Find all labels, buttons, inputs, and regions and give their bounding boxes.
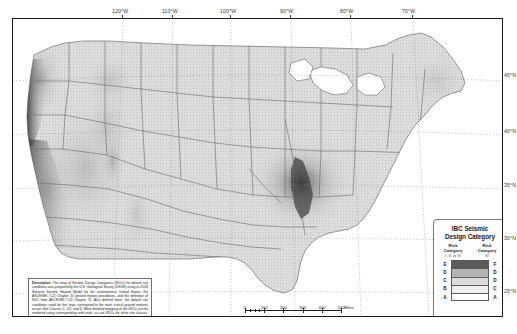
legend-row-4-left-label: A: [439, 293, 451, 301]
latitude-label-1: 40°N: [504, 128, 516, 134]
legend-column-headers: Risk Category I, II, or III Risk Categor…: [434, 241, 503, 258]
map-frame: IBC Seismic Design Category Risk Categor…: [12, 18, 503, 317]
scale-bar-group: 0100200300400500Miles0100200300400500kil…: [245, 305, 363, 317]
legend-title-line2: Design Category: [438, 233, 502, 241]
map-canvas[interactable]: [13, 19, 502, 316]
description-body: This map of Seismic Design Categories (S…: [32, 281, 148, 317]
legend-row-4[interactable]: AA: [439, 293, 501, 301]
legend-row-4-right-label: A: [489, 293, 501, 301]
scale-bar-kilometers: 0100200300400500kilometers: [245, 316, 363, 317]
legend-row-1-swatch: [451, 268, 489, 276]
legend-row-0-swatch: [451, 260, 489, 268]
legend-right-header: Risk Category IV: [473, 243, 501, 258]
legend-row-1-left-label: D: [439, 268, 451, 276]
seismic-design-category-map-page: 120°W110°W100°W90°W80°W70°W 45°N40°N35°N…: [0, 0, 517, 334]
longitude-label-5: 70°W: [402, 8, 415, 14]
legend-row-0-left-label: E: [439, 260, 451, 268]
legend-title: IBC Seismic Design Category: [438, 225, 502, 240]
latitude-label-0: 45°N: [504, 72, 516, 78]
scale-label-4: 400: [318, 305, 325, 310]
legend-panel[interactable]: IBC Seismic Design Category Risk Categor…: [433, 219, 503, 317]
latitude-label-4: 25°N: [504, 288, 516, 294]
scale-minor-tick-1: [250, 309, 251, 313]
longitude-label-0: 120°W: [112, 8, 128, 14]
description-box: Description: This map of Seismic Design …: [28, 278, 152, 317]
scale-bar-miles: 0100200300400500Miles: [245, 305, 363, 316]
legend-row-3-swatch: [451, 285, 489, 293]
latitude-label-2: 35°N: [504, 182, 516, 188]
legend-row-3-right-label: C: [489, 285, 501, 293]
legend-left-header: Risk Category I, II, or III: [439, 243, 467, 258]
legend-title-line1: IBC Seismic: [438, 225, 502, 233]
legend-row-3[interactable]: BC: [439, 285, 501, 293]
legend-row-1[interactable]: DD: [439, 268, 501, 276]
legend-row-4-swatch: [451, 293, 489, 301]
scale-label-1: 100: [261, 305, 268, 310]
legend-row-2-right-label: D: [489, 277, 501, 285]
legend-left-header-line3: I, II, or III: [439, 253, 467, 258]
legend-row-0[interactable]: EF: [439, 260, 501, 268]
longitude-label-1: 110°W: [162, 8, 178, 14]
scale-unit-label: Miles: [344, 305, 354, 310]
longitude-label-2: 100°W: [220, 8, 236, 14]
legend-swatch-rows: EFDDCDBCAA: [439, 260, 501, 301]
scale-label-0: 0: [244, 305, 246, 310]
usa-seismic-hazard-map: [13, 19, 502, 316]
latitude-label-3: 30°N: [504, 235, 516, 241]
scale-minor-tick-3: [259, 309, 260, 313]
legend-row-1-right-label: D: [489, 268, 501, 276]
scale-label-2: 200: [280, 305, 287, 310]
legend-row-2-swatch: [451, 277, 489, 285]
legend-row-2[interactable]: CD: [439, 277, 501, 285]
scale-minor-tick-2: [255, 309, 256, 313]
legend-row-3-left-label: B: [439, 285, 451, 293]
legend-row-0-right-label: F: [489, 260, 501, 268]
legend-right-header-line3: IV: [473, 253, 501, 258]
description-text: Description: This map of Seismic Design …: [32, 281, 148, 317]
scale-label-3: 300: [299, 305, 306, 310]
legend-row-2-left-label: C: [439, 277, 451, 285]
longitude-label-4: 80°W: [340, 8, 353, 14]
longitude-label-3: 90°W: [280, 8, 293, 14]
